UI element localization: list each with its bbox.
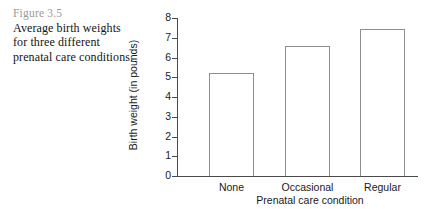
y-tick-mark: [172, 117, 177, 118]
y-tick-label: 0: [157, 169, 171, 181]
y-tick-label: 5: [157, 70, 171, 82]
y-tick-mark: [172, 97, 177, 98]
y-tick-label: 8: [157, 11, 171, 23]
x-tick-label: Regular: [338, 181, 428, 193]
y-tick-mark: [172, 176, 177, 177]
y-tick-mark: [172, 156, 177, 157]
y-axis-tick-labels: 012345678: [145, 0, 171, 209]
y-tick-label: 4: [157, 90, 171, 102]
y-tick-label: 2: [157, 130, 171, 142]
y-tick-label: 1: [157, 149, 171, 161]
y-tick-mark: [172, 58, 177, 59]
bar: [285, 46, 330, 176]
y-tick-mark: [172, 77, 177, 78]
bar-chart: Birth weight (in pounds) 012345678 NoneO…: [0, 0, 441, 209]
y-tick-mark: [172, 18, 177, 19]
x-axis-title: Prenatal care condition: [195, 194, 425, 206]
y-axis-line: [177, 18, 178, 177]
x-axis-line: [177, 176, 418, 177]
y-tick-label: 7: [157, 31, 171, 43]
y-tick-mark: [172, 38, 177, 39]
y-tick-label: 3: [157, 110, 171, 122]
y-tick-label: 6: [157, 51, 171, 63]
y-tick-mark: [172, 137, 177, 138]
y-axis-title: Birth weight (in pounds): [127, 14, 141, 176]
bar: [209, 73, 254, 176]
bar: [360, 29, 405, 176]
